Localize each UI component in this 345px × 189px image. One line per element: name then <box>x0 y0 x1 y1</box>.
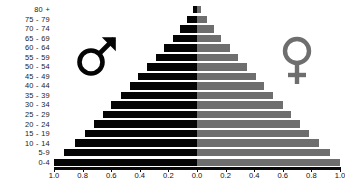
bar-male <box>54 159 197 166</box>
x-axis-tick-label: 1.0 <box>335 171 345 180</box>
pyramid-bar-row <box>54 149 340 156</box>
age-group-label: 70 - 74 <box>25 24 50 33</box>
bar-male <box>111 101 197 108</box>
bar-female <box>197 120 300 127</box>
bar-male <box>180 25 197 32</box>
bar-male <box>173 35 197 42</box>
bar-male <box>121 92 197 99</box>
age-group-label: 55 - 59 <box>25 53 50 62</box>
age-group-label: 60 - 64 <box>25 43 50 52</box>
pyramid-bar-row <box>54 16 340 23</box>
bar-male <box>156 54 197 61</box>
age-group-label: 30 - 34 <box>25 100 50 109</box>
bar-male <box>138 73 197 80</box>
age-group-label: 45 - 49 <box>25 72 50 81</box>
age-group-label: 15 - 19 <box>25 129 50 138</box>
bar-female <box>197 130 309 137</box>
bar-male <box>187 16 197 23</box>
bar-female <box>197 16 207 23</box>
bar-female <box>197 159 340 166</box>
x-axis-tick-label: 0.6 <box>106 171 117 180</box>
bar-female <box>197 82 264 89</box>
bar-male <box>64 149 197 156</box>
age-group-label: 10 - 14 <box>25 139 50 148</box>
bar-male <box>130 82 197 89</box>
bar-female <box>197 35 221 42</box>
x-axis-tick-label: 0.6 <box>278 171 289 180</box>
bar-female <box>197 25 214 32</box>
age-group-label: 20 - 24 <box>25 120 50 129</box>
age-group-label: 5-9 <box>38 148 50 157</box>
bar-male <box>164 44 197 51</box>
age-group-label: 80 + <box>34 5 50 14</box>
bar-female <box>197 92 273 99</box>
pyramid-bar-row <box>54 139 340 146</box>
x-axis-tick-label: 0.2 <box>220 171 231 180</box>
pyramid-bar-row <box>54 120 340 127</box>
bar-female <box>197 63 247 70</box>
age-group-label: 65 - 69 <box>25 34 50 43</box>
pyramid-bar-row <box>54 130 340 137</box>
bar-female <box>197 111 291 118</box>
bar-male <box>94 120 197 127</box>
pyramid-bar-row <box>54 25 340 32</box>
age-group-label: 40 - 44 <box>25 81 50 90</box>
age-group-label: 35 - 39 <box>25 91 50 100</box>
age-group-label: 50 - 54 <box>25 62 50 71</box>
bar-female <box>197 101 283 108</box>
pyramid-bar-row <box>54 6 340 13</box>
bar-male <box>103 111 197 118</box>
pyramid-plot-area <box>54 5 340 167</box>
bar-female <box>197 6 201 13</box>
age-group-axis-labels: 80 +75 - 7970 - 7465 - 6960 - 6455 - 595… <box>0 5 52 167</box>
age-group-label: 0-4 <box>38 158 50 167</box>
x-axis-tick-label: 0.4 <box>135 171 146 180</box>
bar-female <box>197 139 319 146</box>
female-symbol-icon <box>276 34 318 86</box>
age-group-label: 75 - 79 <box>25 15 50 24</box>
bar-female <box>197 44 230 51</box>
x-axis-tick-label: 1.0 <box>49 171 60 180</box>
x-axis-tick-label: 0.2 <box>163 171 174 180</box>
x-axis-tick-label: 0.8 <box>77 171 88 180</box>
pyramid-bar-row <box>54 159 340 166</box>
bar-female <box>197 73 256 80</box>
male-symbol-icon <box>74 33 120 79</box>
x-axis-tick-label: 0.4 <box>249 171 260 180</box>
x-axis-tick-label: 0.0 <box>192 171 203 180</box>
pyramid-bar-row <box>54 101 340 108</box>
pyramid-bar-row <box>54 111 340 118</box>
x-axis-tick-label: 0.8 <box>306 171 317 180</box>
bar-male <box>147 63 197 70</box>
bar-female <box>197 149 330 156</box>
pyramid-bar-row <box>54 92 340 99</box>
bar-female <box>197 54 238 61</box>
bar-male <box>85 130 197 137</box>
bar-male <box>75 139 197 146</box>
age-group-label: 25 - 29 <box>25 110 50 119</box>
